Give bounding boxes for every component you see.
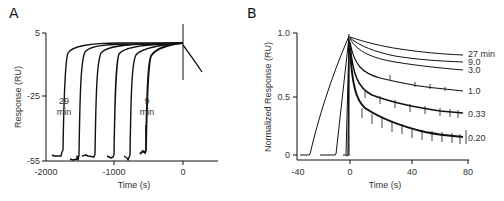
panel-b-xlabel: Time (s) — [369, 180, 402, 190]
figure: A 5 -25 -55 -2000 -1000 0 Time (s) Respo… — [0, 0, 504, 201]
panel-b-xtick: 80 — [463, 167, 473, 177]
panel-a-ytick: -25 — [27, 91, 40, 101]
panel-a-annotation-29-unit: min — [57, 107, 72, 117]
panel-a-traces — [52, 24, 202, 160]
series-label: 3.0 — [468, 65, 481, 75]
series-label: 0.33 — [468, 109, 486, 119]
panel-a-annotation-29: 29 — [59, 96, 69, 106]
panel-a-ytick: 5 — [35, 28, 40, 38]
panel-a-ytick: -55 — [27, 156, 40, 166]
panel-b-xtick: -40 — [291, 167, 304, 177]
panel-a-ylabel: Response (RU) — [13, 66, 23, 128]
series-label: 1.0 — [468, 86, 481, 96]
panel-a-xtick: -1000 — [102, 167, 125, 177]
panel-b-traces — [300, 34, 466, 156]
panel-b-ytick: 0 — [285, 150, 290, 160]
panel-a-xlabel: Time (s) — [118, 180, 151, 190]
panel-a-xtick: 0 — [180, 167, 185, 177]
panel-b-ylabel: Normalized Response (RU) — [263, 42, 273, 152]
panel-b-label: B — [247, 5, 257, 21]
series-label: 0.20 — [468, 133, 486, 143]
panel-a: A 5 -25 -55 -2000 -1000 0 Time (s) Respo… — [9, 5, 218, 190]
panel-a-xtick: -2000 — [34, 167, 57, 177]
panel-b: B 1.0 0.5 0 -40 0 40 80 Time (s) Normali… — [247, 5, 495, 190]
panel-a-label: A — [9, 5, 19, 21]
panel-a-annotation-9-unit: min — [140, 107, 155, 117]
panel-b-ytick: 1.0 — [277, 28, 290, 38]
panel-a-annotation-9: 9 — [144, 96, 149, 106]
panel-b-xtick: 40 — [407, 167, 417, 177]
panel-b-xtick: 0 — [347, 167, 352, 177]
panel-b-ytick: 0.5 — [277, 92, 290, 102]
